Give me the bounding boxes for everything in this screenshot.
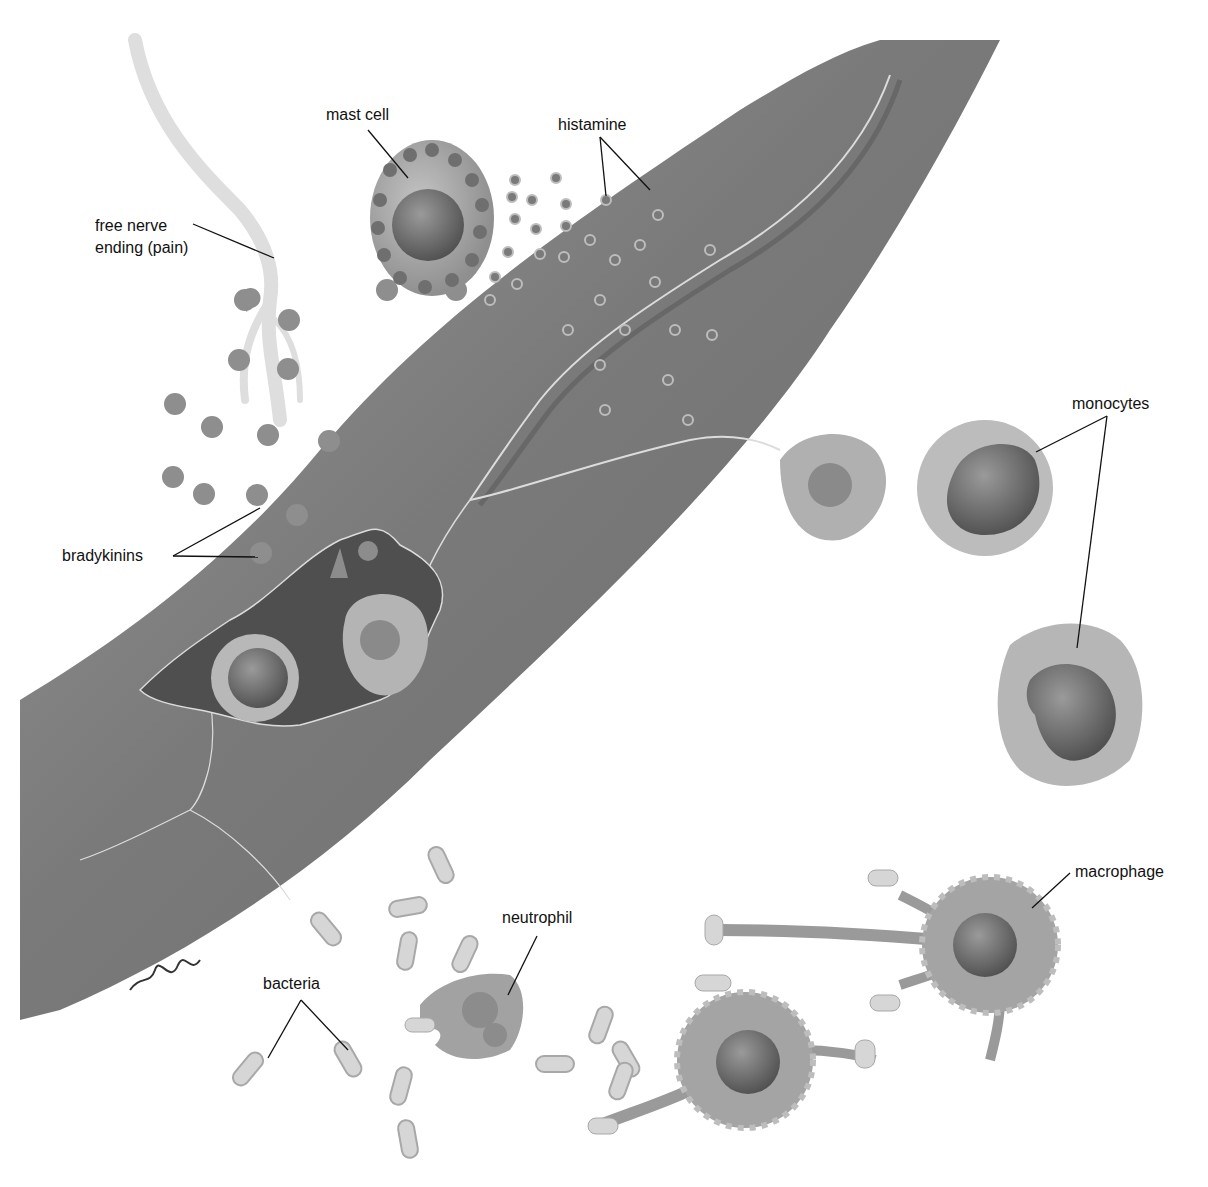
neutrophil (405, 974, 523, 1059)
label-mast-cell: mast cell (326, 105, 389, 125)
monocyte-amoeboid (998, 624, 1143, 786)
label-histamine: histamine (558, 115, 626, 135)
mast-cell (370, 140, 494, 296)
blood-vessel (20, 40, 1000, 1020)
label-bacteria: bacteria (263, 974, 320, 994)
label-monocytes: monocytes (1072, 394, 1149, 414)
inflammation-diagram: mast cell histamine free nerve ending (p… (0, 0, 1208, 1187)
label-free-nerve-line1: free nerve (95, 216, 167, 236)
label-bradykinins: bradykinins (62, 546, 143, 566)
label-macrophage: macrophage (1075, 862, 1164, 882)
label-neutrophil: neutrophil (502, 908, 572, 928)
monocyte-round (917, 420, 1053, 556)
label-free-nerve-line2: ending (pain) (95, 238, 188, 258)
